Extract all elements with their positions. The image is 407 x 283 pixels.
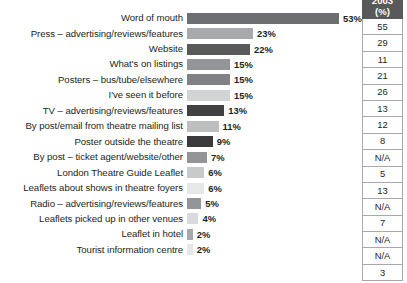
category-label: By post – ticket agent/website/other: [0, 151, 183, 162]
table-cell: 7: [363, 215, 403, 231]
bar: [187, 44, 250, 55]
bar: [187, 121, 219, 132]
table-row: 13: [363, 182, 403, 198]
bar-value-label: 13%: [228, 105, 247, 116]
bar: [187, 59, 230, 70]
bar-value-label: 6%: [208, 183, 222, 194]
bar: [187, 74, 230, 85]
category-label: London Theatre Guide Leaflet: [0, 167, 183, 178]
bar: [187, 28, 253, 39]
category-label: Website: [0, 43, 183, 54]
table-row: 29: [363, 35, 403, 51]
bar-value-label: 15%: [234, 74, 253, 85]
table-row: N/A: [363, 150, 403, 166]
table-row: 7: [363, 215, 403, 231]
category-label: Word of mouth: [0, 12, 183, 23]
table-cell: 13: [363, 100, 403, 116]
table-row: 21: [363, 68, 403, 84]
category-label: By post/email from theatre mailing list: [0, 120, 183, 131]
bar-row: 13%: [187, 105, 247, 116]
table-cell: N/A: [363, 232, 403, 248]
category-label: I've seen it before: [0, 89, 183, 100]
bar: [187, 90, 230, 101]
table-cell: N/A: [363, 199, 403, 215]
bar-value-label: 53%: [343, 13, 362, 24]
bar: [187, 152, 207, 163]
table-cell: 12: [363, 117, 403, 133]
bar-value-label: 6%: [208, 167, 222, 178]
table-cell: N/A: [363, 248, 403, 264]
bar-value-label: 2%: [197, 229, 211, 240]
table-row: 26: [363, 84, 403, 100]
bar: [187, 198, 201, 209]
bar-row: 23%: [187, 28, 276, 39]
bar-value-label: 7%: [211, 152, 225, 163]
bar-row: 22%: [187, 44, 273, 55]
bar-row: 5%: [187, 198, 219, 209]
bar-value-label: 9%: [217, 136, 231, 147]
horizontal-bar-chart: Word of mouthPress – advertising/reviews…: [0, 0, 407, 283]
category-label: Leaflet in hotel: [0, 228, 183, 239]
table-cell: 11: [363, 51, 403, 67]
table-header-unit: (%): [363, 7, 402, 18]
bar-value-label: 4%: [202, 213, 216, 224]
table-cell: N/A: [363, 150, 403, 166]
bar: [187, 244, 193, 255]
bar-value-label: 5%: [205, 198, 219, 209]
bar-value-label: 23%: [257, 28, 276, 39]
bar-row: 2%: [187, 229, 210, 240]
category-label: Press – advertising/reviews/features: [0, 28, 183, 39]
bar-value-label: 11%: [223, 121, 241, 132]
bar-row: 4%: [187, 213, 216, 224]
table-row: 13: [363, 100, 403, 116]
category-label: Poster outside the theatre: [0, 136, 183, 147]
comparison-data-table: 2003 (%) 552911212613128N/A513N/A7N/AN/A…: [362, 0, 403, 281]
bar: [187, 213, 198, 224]
bar-row: 15%: [187, 74, 253, 85]
bar: [187, 229, 193, 240]
category-label: Tourist information centre: [0, 244, 183, 255]
bar-row: 11%: [187, 121, 241, 132]
bar-row: 2%: [187, 244, 210, 255]
category-label: Leaflets picked up in other venues: [0, 213, 183, 224]
category-label: Radio – advertising/reviews/features: [0, 198, 183, 209]
category-label: What's on listings: [0, 58, 183, 69]
table-row: 5: [363, 166, 403, 182]
table-row: 8: [363, 133, 403, 149]
bar: [187, 105, 224, 116]
table-row: N/A: [363, 199, 403, 215]
table-cell: 8: [363, 133, 403, 149]
bar-row: 6%: [187, 183, 222, 194]
bar-row: 53%: [187, 13, 362, 24]
table-cell: 55: [363, 19, 403, 35]
bar-value-label: 2%: [197, 244, 211, 255]
category-label: Posters – bus/tube/elsewhere: [0, 74, 183, 85]
bar: [187, 13, 339, 24]
table-row: 3: [363, 264, 403, 280]
table-row: N/A: [363, 248, 403, 264]
table-row: 55: [363, 19, 403, 35]
bar-row: 15%: [187, 90, 253, 101]
table-header-row: 2003 (%): [363, 0, 403, 19]
table-row: 12: [363, 117, 403, 133]
table-row: 11: [363, 51, 403, 67]
bar-row: 9%: [187, 136, 230, 147]
bar: [187, 167, 204, 178]
category-label: TV – advertising/reviews/features: [0, 105, 183, 116]
table-cell: 13: [363, 182, 403, 198]
table-cell: 26: [363, 84, 403, 100]
bar-row: 15%: [187, 59, 253, 70]
table-header-cell: 2003 (%): [363, 0, 403, 19]
table-cell: 5: [363, 166, 403, 182]
bar-value-label: 22%: [254, 44, 273, 55]
table-cell: 3: [363, 264, 403, 280]
table-cell: 21: [363, 68, 403, 84]
bar: [187, 183, 204, 194]
table-row: N/A: [363, 232, 403, 248]
bar-row: 7%: [187, 152, 225, 163]
category-label: Leaflets about shows in theatre foyers: [0, 182, 183, 193]
bar-value-label: 15%: [234, 59, 253, 70]
table-body: 552911212613128N/A513N/A7N/AN/A3: [363, 19, 403, 281]
bar-row: 6%: [187, 167, 222, 178]
bar: [187, 136, 213, 147]
